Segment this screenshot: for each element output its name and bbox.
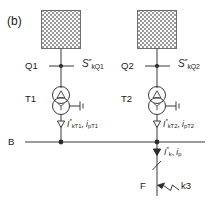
- transformer-symbol-t1: [53, 87, 84, 115]
- transformer-label-t1: T1: [25, 94, 36, 104]
- branch-sc-current-sub-t1: kT1: [72, 123, 82, 129]
- panel-label: (b): [7, 15, 22, 27]
- total-current-label: I″k, ip: [164, 147, 181, 158]
- source-power-label-q1: S″kQ1: [82, 58, 104, 71]
- branch-peak-current-sub-t2: pT2: [184, 123, 194, 129]
- branch-current-label-t1: I″kT1, ipT1: [67, 119, 98, 130]
- fault-type-label-k3: k3: [181, 181, 191, 191]
- transformer-symbol-t2: [149, 87, 180, 115]
- transformer-label-t2: T2: [121, 94, 132, 104]
- node-label-q1: Q1: [25, 61, 38, 71]
- fault-zigzag-icon: [164, 185, 180, 191]
- source-power-sub-q2: kQ2: [187, 63, 199, 70]
- node-label-q2: Q2: [121, 61, 134, 71]
- source-network-box-q1: [42, 11, 81, 49]
- branch-current-label-t2: I″kT2, ipT2: [163, 119, 194, 130]
- source-power-sub-q1: kQ1: [91, 63, 103, 70]
- fault-symbol-k3: [158, 183, 180, 191]
- current-arrow-t1: [57, 121, 64, 128]
- circuit-diagram-figure: (b) Q1 S″kQ1 Q2 S″kQ2 T1 T2 I″kT1, ipT1 …: [0, 0, 222, 202]
- total-peak-current-sub: p: [178, 151, 181, 157]
- current-arrow-total: [153, 149, 160, 156]
- busbar-junction-t1: [59, 140, 64, 145]
- busbar-label: B: [8, 137, 14, 147]
- branch-peak-current-sub-t1: pT1: [88, 123, 98, 129]
- source-power-symbol-q1: S: [82, 58, 89, 69]
- source-network-box-q2: [138, 11, 177, 49]
- branch-sc-current-sub-t2: kT2: [168, 123, 178, 129]
- feeder-label-f: F: [140, 181, 146, 191]
- source-power-symbol-q2: S: [178, 58, 185, 69]
- source-power-label-q2: S″kQ2: [178, 58, 200, 71]
- current-arrow-t2: [153, 121, 160, 128]
